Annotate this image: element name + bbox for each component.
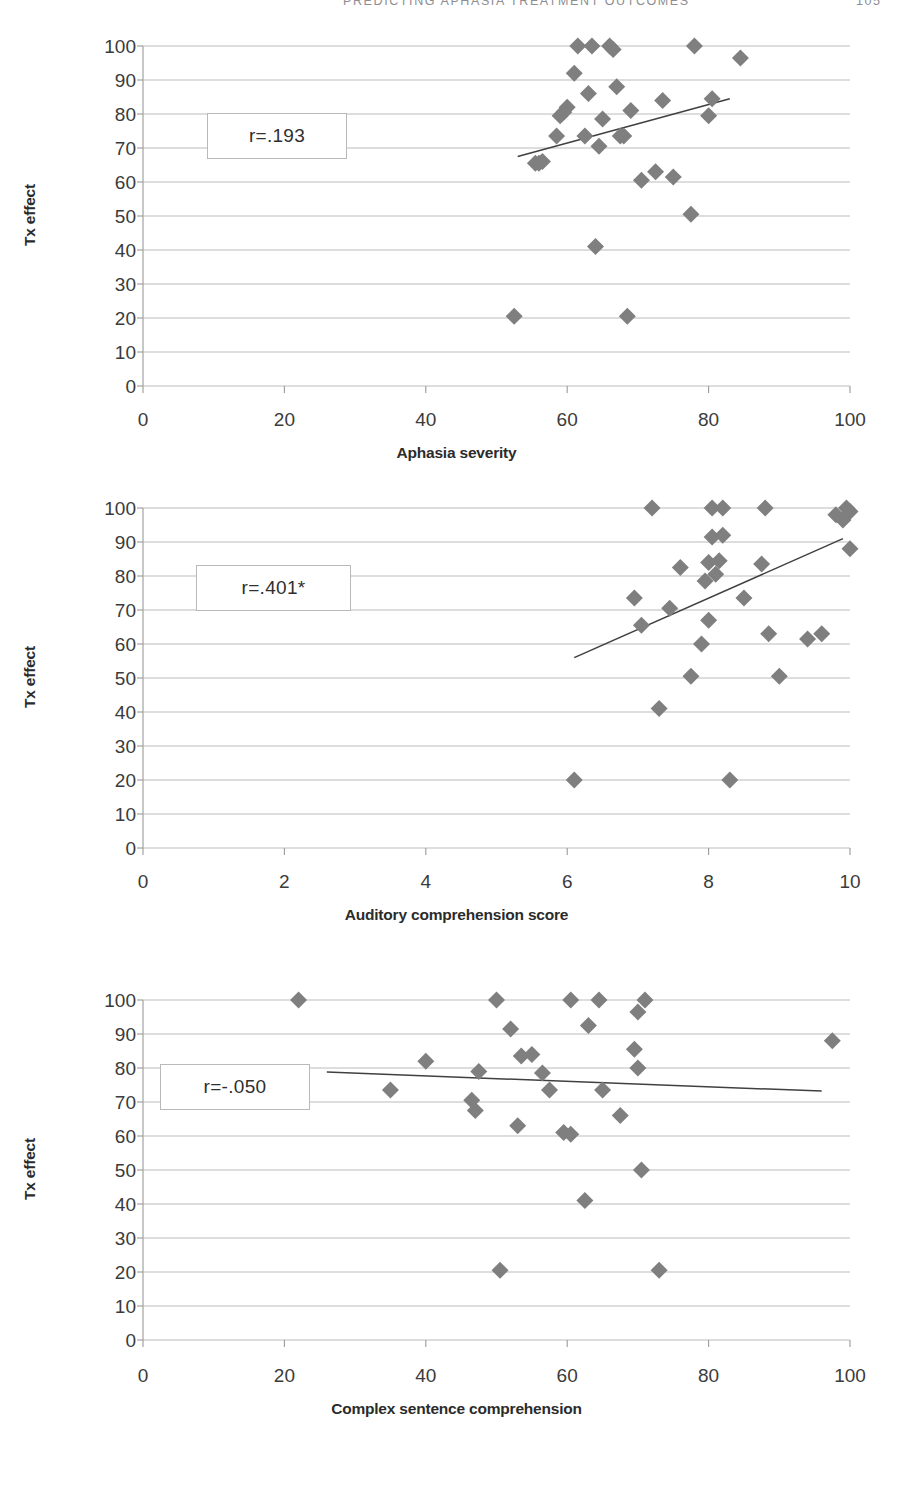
data-point	[509, 1117, 526, 1134]
y-tick-label: 100	[104, 499, 136, 518]
x-tick-label: 20	[274, 410, 295, 429]
data-point	[594, 111, 611, 128]
data-point	[619, 308, 636, 325]
plot-area: 0102030405060708090100020406080100Aphasi…	[0, 18, 913, 488]
plot-area: 0102030405060708090100020406080100Comple…	[0, 980, 913, 1480]
data-point	[693, 636, 710, 653]
y-tick-label: 60	[115, 635, 136, 654]
data-point	[580, 85, 597, 102]
data-point	[290, 992, 307, 1009]
data-point	[682, 668, 699, 685]
data-point	[591, 992, 608, 1009]
scatter-chart-complex-sentence: 0102030405060708090100020406080100Comple…	[0, 980, 913, 1480]
data-point	[711, 552, 728, 569]
x-tick-label: 0	[138, 872, 149, 891]
y-tick-label: 30	[115, 1229, 136, 1248]
data-point	[417, 1053, 434, 1070]
plot-canvas	[0, 488, 913, 908]
x-tick-label: 80	[698, 1366, 719, 1385]
data-point	[566, 65, 583, 82]
data-point	[587, 238, 604, 255]
y-tick-label: 50	[115, 207, 136, 226]
data-point	[700, 612, 717, 629]
data-point	[644, 500, 661, 517]
y-tick-label: 10	[115, 343, 136, 362]
data-point	[583, 38, 600, 55]
page-number: 105	[856, 0, 882, 8]
data-point	[771, 668, 788, 685]
x-axis-title: Complex sentence comprehension	[0, 1400, 913, 1418]
y-tick-label: 40	[115, 241, 136, 260]
scatter-chart-auditory-comprehension: 01020304050607080901000246810Auditory co…	[0, 488, 913, 980]
data-point	[626, 590, 643, 607]
running-head-title: PREDICTING APHASIA TREATMENT OUTCOMES	[343, 0, 690, 8]
data-point	[506, 308, 523, 325]
data-point	[714, 500, 731, 517]
data-point	[576, 128, 593, 145]
correlation-annotation-box: r=.193	[207, 113, 347, 159]
data-point	[591, 138, 608, 155]
y-tick-label: 10	[115, 805, 136, 824]
data-point	[665, 168, 682, 185]
x-tick-label: 20	[274, 1366, 295, 1385]
data-point	[594, 1082, 611, 1099]
x-tick-label: 8	[703, 872, 714, 891]
data-point	[576, 1192, 593, 1209]
data-point	[661, 600, 678, 617]
data-point	[686, 38, 703, 55]
y-tick-label: 90	[115, 71, 136, 90]
data-point	[566, 772, 583, 789]
y-tick-label: 20	[115, 771, 136, 790]
data-point	[760, 625, 777, 642]
data-point	[523, 1046, 540, 1063]
data-point	[732, 49, 749, 66]
data-point	[651, 1262, 668, 1279]
y-tick-label: 60	[115, 1127, 136, 1146]
y-tick-label: 30	[115, 275, 136, 294]
trendline	[327, 1072, 822, 1091]
running-head: PREDICTING APHASIA TREATMENT OUTCOMES 10…	[0, 0, 913, 8]
x-tick-label: 4	[421, 872, 432, 891]
data-point	[721, 772, 738, 789]
x-tick-label: 80	[698, 410, 719, 429]
data-point	[672, 559, 689, 576]
data-point	[622, 102, 639, 119]
x-tick-label: 60	[557, 410, 578, 429]
plot-area: 01020304050607080901000246810Auditory co…	[0, 488, 913, 980]
y-tick-label: 80	[115, 567, 136, 586]
y-tick-label: 70	[115, 1093, 136, 1112]
y-tick-label: 80	[115, 105, 136, 124]
data-point	[629, 1060, 646, 1077]
y-tick-label: 0	[125, 377, 136, 396]
y-tick-label: 90	[115, 533, 136, 552]
x-tick-label: 60	[557, 1366, 578, 1385]
y-tick-label: 0	[125, 1331, 136, 1350]
y-axis-title: Tx effect	[21, 175, 39, 255]
data-point	[757, 500, 774, 517]
x-tick-label: 40	[415, 410, 436, 429]
data-point	[654, 92, 671, 109]
data-point	[541, 1082, 558, 1099]
data-point	[824, 1032, 841, 1049]
x-tick-label: 6	[562, 872, 573, 891]
data-point	[753, 556, 770, 573]
y-tick-label: 10	[115, 1297, 136, 1316]
y-tick-label: 40	[115, 703, 136, 722]
data-point	[382, 1082, 399, 1099]
data-point	[651, 700, 668, 717]
y-tick-label: 20	[115, 1263, 136, 1282]
x-tick-label: 100	[834, 1366, 866, 1385]
data-point	[647, 163, 664, 180]
x-tick-label: 2	[279, 872, 290, 891]
y-tick-label: 50	[115, 1161, 136, 1180]
y-tick-label: 100	[104, 991, 136, 1010]
x-axis-title: Aphasia severity	[0, 444, 913, 462]
data-point	[612, 1107, 629, 1124]
y-tick-label: 50	[115, 669, 136, 688]
data-point	[813, 625, 830, 642]
data-point	[548, 128, 565, 145]
data-point	[562, 992, 579, 1009]
y-axis-title: Tx effect	[21, 1129, 39, 1209]
data-point	[488, 992, 505, 1009]
data-point	[714, 527, 731, 544]
